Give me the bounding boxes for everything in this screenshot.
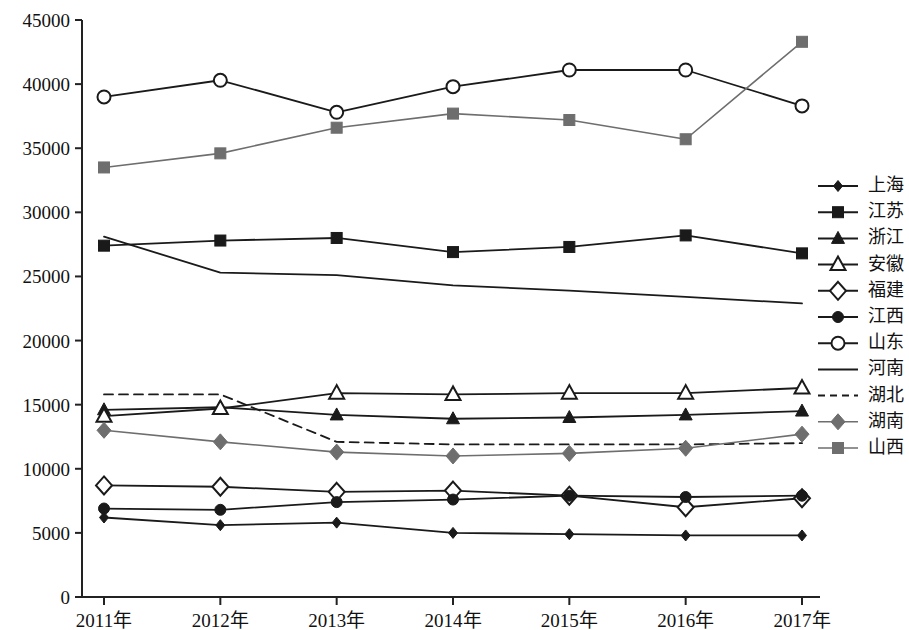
- x-axis-tick-label: 2013年: [308, 610, 365, 630]
- x-axis-tick-label: 2015年: [541, 610, 598, 630]
- y-axis-tick-label: 30000: [23, 202, 71, 223]
- data-point: [679, 64, 692, 77]
- data-point: [448, 494, 459, 505]
- data-point: [832, 337, 845, 350]
- data-point: [99, 162, 110, 173]
- legend-item-label: 江苏: [868, 200, 904, 221]
- line-chart: 0500010000150002000025000300003500040000…: [0, 0, 909, 630]
- data-point: [564, 115, 575, 126]
- legend-item-label: 江西: [868, 305, 904, 326]
- y-axis-tick-label: 10000: [23, 459, 71, 480]
- y-axis-tick-label: 20000: [23, 331, 71, 352]
- data-point: [99, 240, 110, 251]
- data-point: [833, 443, 844, 454]
- x-axis-tick-label: 2017年: [774, 610, 831, 630]
- x-axis-tick-label: 2011年: [76, 610, 132, 630]
- data-point: [564, 241, 575, 252]
- y-axis-tick-label: 40000: [23, 74, 71, 95]
- data-point: [99, 503, 110, 514]
- data-point: [563, 64, 576, 77]
- data-point: [215, 235, 226, 246]
- data-point: [680, 491, 691, 502]
- data-point: [331, 497, 342, 508]
- y-axis-tick-label: 0: [61, 587, 71, 608]
- x-axis-tick-label: 2016年: [657, 610, 714, 630]
- chart-canvas: 0500010000150002000025000300003500040000…: [0, 0, 909, 630]
- y-axis-tick-label: 15000: [23, 395, 71, 416]
- legend-item-label: 河南: [868, 357, 904, 378]
- legend-item-label: 福建: [868, 279, 904, 300]
- legend-item-label: 上海: [868, 174, 904, 195]
- y-axis-tick-label: 5000: [32, 523, 70, 544]
- legend-item-label: 山东: [868, 331, 904, 352]
- x-axis-tick-label: 2014年: [425, 610, 482, 630]
- data-point: [833, 312, 844, 323]
- data-point: [448, 108, 459, 119]
- y-axis-tick-label: 25000: [23, 266, 71, 287]
- data-point: [833, 207, 844, 218]
- legend-item-label: 湖北: [868, 384, 904, 405]
- data-point: [796, 99, 809, 112]
- legend-item-label: 安徽: [868, 253, 904, 274]
- data-point: [797, 248, 808, 259]
- data-point: [214, 74, 227, 87]
- data-point: [215, 504, 226, 515]
- legend-item-label: 山西: [868, 436, 904, 457]
- data-point: [215, 148, 226, 159]
- data-point: [448, 247, 459, 258]
- legend-item-label: 浙江: [868, 226, 904, 247]
- data-point: [447, 80, 460, 93]
- legend-item-label: 湖南: [868, 410, 904, 431]
- data-point: [98, 90, 111, 103]
- y-axis-tick-label: 45000: [23, 10, 71, 31]
- x-axis-tick-label: 2012年: [192, 610, 249, 630]
- data-point: [797, 36, 808, 47]
- data-point: [797, 490, 808, 501]
- data-point: [564, 490, 575, 501]
- data-point: [680, 230, 691, 241]
- data-point: [331, 232, 342, 243]
- data-point: [331, 122, 342, 133]
- data-point: [680, 134, 691, 145]
- data-point: [330, 106, 343, 119]
- y-axis-tick-label: 35000: [23, 138, 71, 159]
